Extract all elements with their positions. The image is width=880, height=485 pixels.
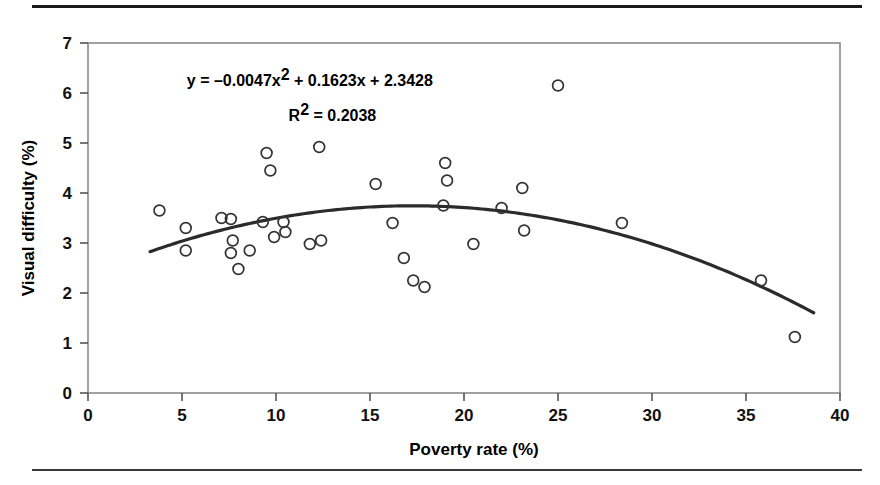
y-tick-label: 7: [63, 34, 72, 53]
x-tick-label: 15: [361, 406, 380, 425]
x-tick-label: 10: [267, 406, 286, 425]
data-point: [468, 239, 479, 250]
data-point: [387, 218, 398, 229]
x-tick-label: 30: [643, 406, 662, 425]
data-point: [398, 253, 409, 264]
y-tick-label: 4: [63, 184, 73, 203]
figure-container: 0510152025303540 01234567 y = –0.0047x2 …: [0, 0, 880, 485]
y-axis-ticks: [80, 43, 88, 393]
data-point: [370, 179, 381, 190]
plot-frame: [88, 43, 840, 393]
data-point: [261, 148, 272, 159]
y-tick-label: 3: [63, 234, 72, 253]
y-tick-label: 5: [63, 134, 72, 153]
data-point: [440, 158, 451, 169]
data-point: [419, 282, 430, 293]
x-tick-label: 0: [83, 406, 92, 425]
data-point: [280, 227, 291, 238]
x-tick-label: 40: [831, 406, 850, 425]
data-point: [517, 183, 528, 194]
data-point-markers: [154, 80, 800, 342]
x-tick-label: 20: [455, 406, 474, 425]
y-tick-label: 2: [63, 284, 72, 303]
y-tick-label: 0: [63, 384, 72, 403]
data-point: [180, 223, 191, 234]
x-axis-ticks: [88, 393, 840, 401]
data-point: [442, 175, 453, 186]
y-tick-label: 1: [63, 334, 72, 353]
regression-equation: y = –0.0047x2 + 0.1623x + 2.3428: [187, 66, 433, 89]
data-point: [233, 264, 244, 275]
data-point: [244, 245, 255, 256]
data-point: [553, 80, 564, 91]
data-point: [408, 275, 419, 286]
x-tick-label: 35: [737, 406, 756, 425]
y-axis-title: Visual difficulty (%): [19, 140, 38, 297]
data-point: [519, 225, 530, 236]
data-point: [227, 235, 238, 246]
data-point: [265, 165, 276, 176]
quadratic-trendline: [150, 206, 814, 313]
data-point: [304, 239, 315, 250]
data-point: [316, 235, 327, 246]
data-point: [180, 245, 191, 256]
chart-annotations: y = –0.0047x2 + 0.1623x + 2.3428R2 = 0.2…: [187, 66, 433, 124]
x-axis-title: Poverty rate (%): [409, 440, 538, 459]
data-point: [617, 218, 628, 229]
x-tick-label: 25: [549, 406, 568, 425]
data-point: [756, 275, 767, 286]
y-axis-tick-labels: 01234567: [63, 34, 73, 403]
x-axis-tick-labels: 0510152025303540: [83, 406, 849, 425]
data-point: [154, 205, 165, 216]
y-tick-label: 6: [63, 84, 72, 103]
x-tick-label: 5: [177, 406, 186, 425]
scatter-plot: 0510152025303540 01234567 y = –0.0047x2 …: [0, 0, 880, 485]
data-point: [225, 248, 236, 259]
data-point: [269, 232, 280, 243]
data-point: [314, 142, 325, 153]
r-squared: R2 = 0.2038: [289, 101, 377, 124]
data-point: [789, 332, 800, 343]
